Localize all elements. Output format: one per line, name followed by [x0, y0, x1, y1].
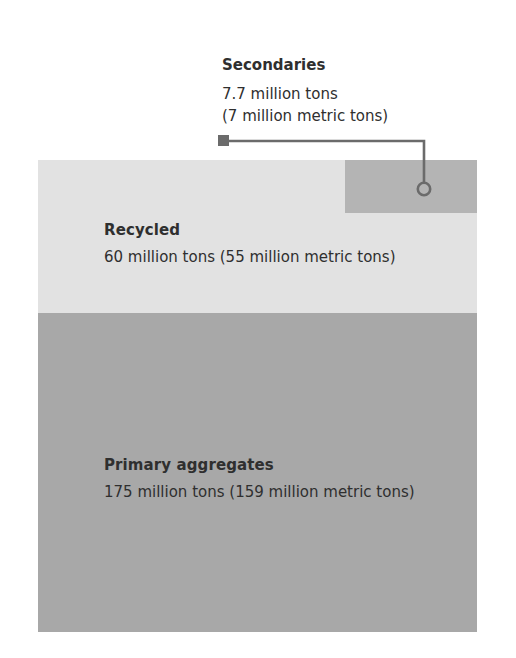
- label-primary-aggregates-value: 175 million tons (159 million metric ton…: [104, 483, 415, 502]
- label-recycled-value: 60 million tons (55 million metric tons): [104, 248, 395, 267]
- label-recycled-title: Recycled: [104, 221, 395, 240]
- label-recycled: Recycled 60 million tons (55 million met…: [104, 221, 395, 267]
- label-primary-aggregates: Primary aggregates 175 million tons (159…: [104, 456, 415, 502]
- callout-secondaries-value-imperial: 7.7 million tons: [222, 83, 388, 105]
- callout-secondaries-value-metric: (7 million metric tons): [222, 105, 388, 127]
- callout-secondaries-title: Secondaries: [222, 55, 388, 75]
- callout-secondaries: Secondaries 7.7 million tons (7 million …: [222, 55, 388, 127]
- block-secondaries: [345, 160, 477, 213]
- leader-square-marker-icon: [218, 135, 229, 146]
- aggregates-stacked-chart: Recycled 60 million tons (55 million met…: [0, 0, 516, 658]
- label-primary-aggregates-title: Primary aggregates: [104, 456, 415, 475]
